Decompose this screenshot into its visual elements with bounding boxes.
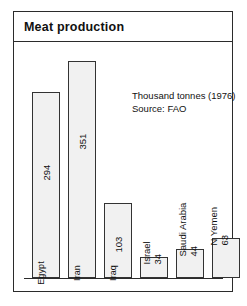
bar-value-saudi-arabia: 44 — [189, 246, 199, 257]
bar-value-n-yemen: 63 — [220, 235, 230, 246]
bar-iran: Iran — [68, 61, 96, 278]
bar-egypt: Egypt — [32, 92, 60, 278]
bar-value-egypt: 294 — [42, 165, 52, 181]
bar-category-n-yemen: N Yemen — [209, 207, 219, 246]
bar-value-iraq: 103 — [114, 237, 124, 253]
chart-title: Meat production — [24, 20, 124, 34]
chart-frame: Meat production Thousand tonnes (1976) S… — [13, 11, 233, 292]
bar-category-saudi-arabia: Saudi Arabia — [178, 203, 188, 257]
bar-category-egypt: Egypt — [36, 261, 46, 285]
bar-category-israel: Israel — [142, 241, 152, 264]
bar-label-egypt: Egypt — [37, 261, 46, 285]
bar-value-israel: 34 — [153, 254, 163, 265]
title-divider — [14, 41, 232, 42]
axis-baseline — [24, 278, 223, 279]
bar-value-iran: 351 — [78, 134, 88, 150]
plot-area: Egypt 294 Iran 351 Iraq 103 Israel — [24, 46, 223, 279]
